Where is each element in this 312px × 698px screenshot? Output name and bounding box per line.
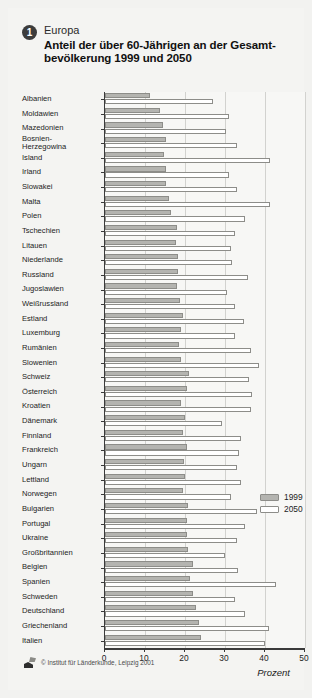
bar-2050 [105, 538, 237, 543]
category-label: Irland [22, 168, 86, 176]
figure-card: 1 Europa Anteil der über 60-Jährigen an … [8, 8, 304, 690]
bar-1999 [105, 474, 185, 479]
category-label: Lettland [22, 476, 86, 484]
x-axis-line [104, 648, 305, 650]
bar-2050 [105, 114, 229, 119]
bar-2050 [105, 216, 245, 221]
category-label: Polen [22, 212, 86, 220]
bar-2050 [105, 582, 276, 587]
gridline-50 [305, 92, 306, 648]
category-label: Slowakei [22, 183, 86, 191]
bar-1999 [105, 503, 188, 508]
x-tick-mark-30 [224, 648, 225, 652]
category-label: Russland [22, 271, 86, 279]
bar-1999 [105, 400, 181, 405]
category-label: Österreich [22, 388, 86, 396]
bar-1999 [105, 181, 166, 186]
legend-label-1999: 1999 [284, 492, 303, 502]
x-tick-label-40: 40 [259, 653, 268, 663]
bar-2050 [105, 597, 235, 602]
figure-number-badge: 1 [22, 25, 37, 40]
bar-1999 [105, 488, 183, 493]
bar-1999 [105, 298, 180, 303]
bar-2050 [105, 568, 238, 573]
bar-2050 [105, 143, 237, 148]
category-label: Jugoslawien [22, 285, 86, 293]
bar-2050 [105, 304, 235, 309]
category-label: Ungarn [22, 461, 86, 469]
bar-1999 [105, 561, 193, 566]
figure-header: 1 Europa Anteil der über 60-Jährigen an … [22, 24, 292, 65]
figure-footer: © Institut für Länderkunde, Leipzig 2001 [24, 657, 154, 668]
bar-1999 [105, 444, 187, 449]
figure-title-line1: Anteil der über 60-Jährigen an der Gesam… [44, 39, 276, 52]
bar-2050 [105, 509, 257, 514]
chart-legend: 1999 2050 [260, 492, 312, 516]
x-tick-mark-40 [264, 648, 265, 652]
bar-2050 [105, 202, 270, 207]
bar-2050 [105, 436, 241, 441]
category-label: Griechenland [22, 622, 86, 630]
category-label: Ukraine [22, 534, 86, 542]
bar-2050 [105, 290, 227, 295]
x-tick-label-30: 30 [219, 653, 228, 663]
bar-1999 [105, 635, 201, 640]
figure-title-line2: bevölkerung 1999 und 2050 [44, 52, 276, 65]
copyright-text: © Institut für Länderkunde, Leipzig 2001 [41, 659, 154, 666]
category-label: Island [22, 154, 86, 162]
category-label: Belgien [22, 563, 86, 571]
bar-1999 [105, 196, 169, 201]
category-label: Weißrussland [22, 300, 86, 308]
category-label: Rumänien [22, 344, 86, 352]
category-label: Malta [22, 198, 86, 206]
category-label: Moldawien [22, 110, 86, 118]
map-logo-icon [24, 657, 37, 668]
bar-1999 [105, 547, 188, 552]
bar-1999 [105, 93, 150, 98]
x-tick-mark-10 [144, 648, 145, 652]
category-label: Norwegen [22, 490, 86, 498]
category-label: Kroatien [22, 402, 86, 410]
bar-1999 [105, 518, 187, 523]
category-label: Frankreich [22, 446, 86, 454]
legend-swatch-2050 [260, 506, 279, 513]
bar-2050 [105, 480, 241, 485]
bar-1999 [105, 225, 177, 230]
category-label: Slowenien [22, 359, 86, 367]
bar-2050 [105, 260, 232, 265]
category-label: Bulgarien [22, 505, 86, 513]
bar-1999 [105, 122, 163, 127]
bar-1999 [105, 357, 181, 362]
bar-2050 [105, 275, 248, 280]
bar-1999 [105, 386, 187, 391]
category-label: Bosnien- Herzegowina [22, 135, 86, 151]
legend-swatch-1999 [260, 494, 279, 501]
category-label: Niederlande [22, 256, 86, 264]
category-label: Italien [22, 637, 86, 645]
category-label: Mazedonien [22, 124, 86, 132]
x-tick-label-20: 20 [179, 653, 188, 663]
bar-1999 [105, 152, 164, 157]
x-axis-unit-label: Prozent [257, 667, 290, 678]
bar-2050 [105, 187, 237, 192]
category-label: Schweden [22, 593, 86, 601]
category-label: Portugal [22, 520, 86, 528]
bar-2050 [105, 524, 245, 529]
bar-2050 [105, 319, 244, 324]
category-label: Estland [22, 315, 86, 323]
category-axis-labels: AlbanienMoldawienMazedonienBosnien- Herz… [22, 92, 90, 648]
bar-1999 [105, 591, 193, 596]
bar-1999 [105, 327, 181, 332]
category-label: Spanien [22, 578, 86, 586]
bar-1999 [105, 269, 178, 274]
category-label: Luxemburg [22, 329, 86, 337]
category-label: Tschechien [22, 227, 86, 235]
bar-1999 [105, 137, 166, 142]
category-label: Deutschland [22, 607, 86, 615]
bar-2050 [105, 407, 251, 412]
bar-2050 [105, 465, 237, 470]
bar-1999 [105, 605, 196, 610]
bar-2050 [105, 129, 226, 134]
category-label: Litauen [22, 242, 86, 250]
bar-2050 [105, 377, 249, 382]
